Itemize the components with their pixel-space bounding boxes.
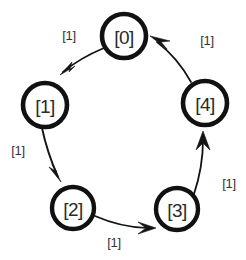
edge-path (157, 42, 191, 82)
edge-weight-label-0-1: [1] (62, 28, 76, 43)
node-1[interactable]: [1] (23, 83, 67, 127)
arrowhead-icon (49, 164, 61, 182)
node-0[interactable]: [0] (102, 14, 146, 58)
edge-1-to-2[interactable] (42, 128, 61, 182)
edge-4-to-0[interactable] (150, 36, 191, 82)
edge-weight-label-1-2: [1] (11, 143, 25, 158)
edge-weight-label-3-4: [1] (222, 176, 236, 191)
node-label: [1] (35, 96, 55, 117)
edge-2-to-3[interactable] (95, 216, 156, 234)
node-2[interactable]: [2] (52, 187, 94, 229)
edge-3-to-4[interactable] (194, 131, 210, 194)
cycle-graph-figure: [0] [1] [2] [3] [4] [1] [1] [1 (0, 0, 246, 260)
edge-weight-label-4-0: [1] (200, 33, 214, 48)
node-3[interactable]: [3] (156, 188, 198, 230)
node-4[interactable]: [4] (183, 81, 227, 125)
node-label: [4] (195, 94, 215, 115)
edge-path (95, 216, 147, 228)
edge-weight-label-2-3: [1] (107, 235, 121, 250)
edge-path (194, 140, 203, 194)
node-label: [2] (63, 199, 83, 220)
arrowhead-icon (150, 36, 170, 49)
edge-0-to-1[interactable] (60, 48, 104, 75)
node-label: [0] (114, 27, 134, 48)
node-layer: [0] [1] [2] [3] [4] (23, 14, 227, 230)
node-label: [3] (167, 200, 187, 221)
graph-canvas: [0] [1] [2] [3] [4] [1] [1] [1 (0, 0, 246, 260)
